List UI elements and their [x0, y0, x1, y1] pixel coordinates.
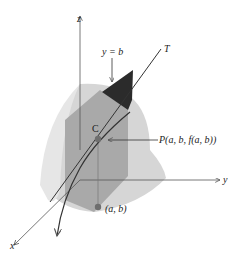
x-axis-label: x	[9, 240, 15, 251]
point-p	[95, 136, 101, 142]
point-ab	[95, 204, 101, 210]
surface-diagram: z y x y = b T C P(a, b, f(a, b)) (a, b)	[0, 0, 233, 256]
point-ab-label: (a, b)	[105, 203, 127, 215]
y-axis-label: y	[222, 174, 228, 185]
plane-label: y = b	[101, 46, 123, 57]
curve-label: C	[92, 123, 99, 134]
z-axis-label: z	[76, 13, 81, 24]
point-p-label: P(a, b, f(a, b))	[158, 134, 217, 146]
tangent-label: T	[164, 43, 171, 54]
